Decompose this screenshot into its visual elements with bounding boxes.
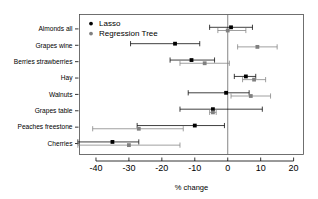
x-tick-label: -10 bbox=[188, 163, 201, 173]
category-label: Cherries bbox=[48, 140, 74, 147]
data-point-marker bbox=[203, 61, 207, 65]
data-point-marker bbox=[226, 29, 230, 33]
data-point-marker bbox=[249, 94, 253, 98]
data-point-group bbox=[180, 61, 229, 66]
x-tick-label: -20 bbox=[155, 163, 168, 173]
category-label: Almonds all bbox=[38, 25, 73, 32]
data-point-marker bbox=[252, 78, 256, 82]
data-point-group bbox=[238, 44, 278, 49]
data-point-marker bbox=[111, 140, 115, 144]
data-point-group bbox=[137, 123, 224, 128]
x-tick-label: -40 bbox=[89, 163, 102, 173]
data-point-marker bbox=[193, 124, 197, 128]
data-point-marker bbox=[127, 143, 131, 147]
data-point-marker bbox=[229, 25, 233, 29]
chart-canvas: -40-30-20-1001020% changeAlmonds allGrap… bbox=[0, 0, 318, 199]
x-axis-title: % change bbox=[175, 183, 208, 192]
data-point-group bbox=[170, 57, 214, 62]
x-tick-label: 0 bbox=[225, 163, 230, 173]
category-label: Walnuts bbox=[49, 91, 73, 98]
category-label: Grapes wine bbox=[35, 42, 72, 50]
data-point-marker bbox=[224, 91, 228, 95]
x-tick-label: 10 bbox=[256, 163, 266, 173]
category-label: Peaches freestone bbox=[18, 123, 73, 130]
data-point-group bbox=[93, 126, 184, 131]
data-point-group bbox=[131, 41, 200, 46]
data-point-group bbox=[210, 110, 217, 115]
data-point-group bbox=[231, 93, 271, 98]
category-label: Hay bbox=[61, 74, 73, 82]
data-point-marker bbox=[137, 127, 141, 131]
data-point-marker bbox=[211, 110, 215, 114]
data-point-group bbox=[180, 107, 262, 112]
data-point-marker bbox=[190, 58, 194, 62]
category-label: Grapes table bbox=[35, 107, 73, 115]
data-point-marker bbox=[255, 45, 259, 49]
legend-label-regression-tree: Regression Tree bbox=[99, 29, 158, 38]
data-point-marker bbox=[244, 75, 248, 79]
data-point-group bbox=[78, 143, 180, 148]
legend-marker-lasso bbox=[89, 22, 93, 26]
x-tick-label: 20 bbox=[289, 163, 299, 173]
category-label: Berries strawberries bbox=[14, 58, 73, 65]
legend-label-lasso: Lasso bbox=[99, 19, 121, 28]
legend-marker-regression-tree bbox=[89, 32, 93, 36]
x-tick-label: -30 bbox=[122, 163, 135, 173]
data-point-marker bbox=[173, 42, 177, 46]
forest-plot-chart: -40-30-20-1001020% changeAlmonds allGrap… bbox=[0, 0, 318, 199]
data-point-group bbox=[188, 90, 249, 95]
